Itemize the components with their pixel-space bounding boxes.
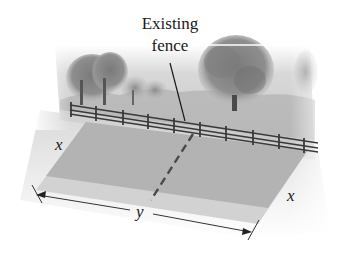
label-x-left: x (54, 135, 63, 154)
label-y: y (134, 202, 144, 221)
fence-field-diagram: Existing fence x x y (0, 0, 338, 261)
callout-line2: fence (152, 36, 189, 55)
label-x-right: x (286, 186, 295, 205)
callout-line1: Existing (142, 14, 199, 33)
